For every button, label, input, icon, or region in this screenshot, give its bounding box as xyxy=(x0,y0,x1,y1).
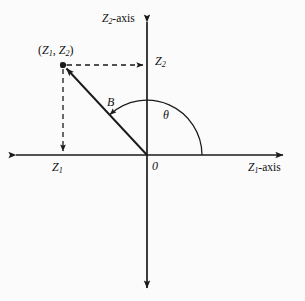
z2-component-var: Z xyxy=(155,54,162,68)
z2-axis-label: Z2-axis xyxy=(102,13,135,26)
z2-component-sub: 2 xyxy=(162,60,166,69)
theta-arc xyxy=(110,100,202,155)
point-close-paren: ) xyxy=(70,43,74,57)
origin-label: 0 xyxy=(152,160,158,172)
z1-axis-label-suffix: -axis xyxy=(258,161,280,173)
vector-diagram-figure: Z2-axis Z1-axis (Z1, Z2) Z2 Z1 B θ 0 xyxy=(0,0,305,301)
point-marker-dot xyxy=(60,62,66,68)
z1-component-label: Z1 xyxy=(52,161,63,175)
vector-b-label: B xyxy=(107,96,114,108)
point-coordinates-label: (Z1, Z2) xyxy=(38,44,74,58)
z1-component-sub: 1 xyxy=(59,166,63,175)
z1-axis-label: Z1-axis xyxy=(248,162,281,175)
point-coord1-var: Z xyxy=(42,43,49,57)
theta-angle-label: θ xyxy=(163,109,169,121)
z2-axis-label-suffix: -axis xyxy=(112,12,134,24)
z1-component-var: Z xyxy=(52,160,59,174)
vector-b-line xyxy=(67,69,148,156)
z2-component-label: Z2 xyxy=(155,55,166,69)
